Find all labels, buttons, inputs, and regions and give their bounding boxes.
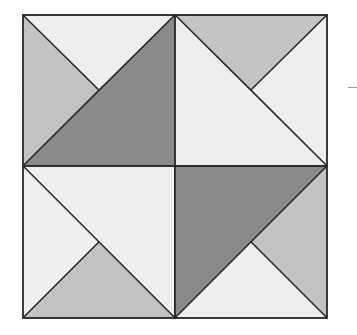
quilt-block-diagram <box>0 0 357 335</box>
quadrant-bottom-right <box>175 166 327 318</box>
margin-dash-mark <box>348 87 357 88</box>
quadrant-top-right <box>175 15 327 166</box>
quadrant-top-left <box>23 15 175 166</box>
quadrant-bottom-left <box>23 166 175 318</box>
